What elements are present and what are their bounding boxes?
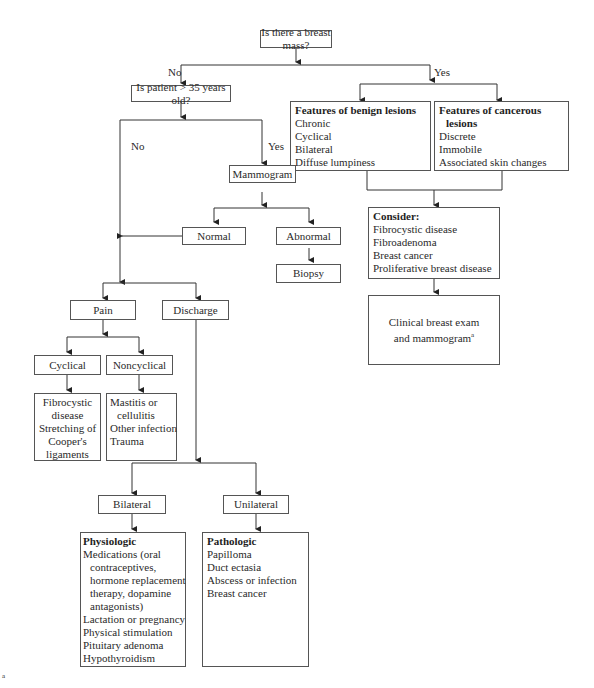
consider-title: Consider: bbox=[373, 210, 495, 223]
breast-mass-question-label: Is there a breast mass? bbox=[261, 26, 331, 52]
age-no-label: No bbox=[131, 140, 144, 153]
branch-yes-label: Yes bbox=[434, 66, 450, 79]
branch-no-label: No bbox=[168, 66, 181, 79]
cyclical-cause-line: ligaments bbox=[36, 448, 99, 461]
cyclical-label: Cyclical bbox=[49, 359, 86, 372]
physiologic-line: therapy, dopamine bbox=[83, 587, 183, 600]
normal-label: Normal bbox=[197, 230, 231, 243]
cyclical-cause-line: Stretching of bbox=[36, 422, 99, 435]
noncyclical-box: Noncyclical bbox=[106, 355, 173, 375]
abnormal-box: Abnormal bbox=[276, 227, 341, 245]
benign-features-box: Features of benign lesions Chronic Cycli… bbox=[290, 101, 431, 171]
clinical-exam-line1: Clinical breast exam bbox=[389, 316, 479, 329]
clinical-exam-line2: and mammogram bbox=[394, 331, 471, 343]
physiologic-line: hormone replacement bbox=[83, 574, 183, 587]
consider-item: Breast cancer bbox=[373, 249, 495, 262]
consider-box: Consider: Fibrocystic disease Fibroadeno… bbox=[368, 207, 500, 279]
cancerous-feature-item: Immobile bbox=[439, 143, 564, 156]
noncyclical-cause-line: cellulitis bbox=[110, 409, 173, 422]
physiologic-box: Physiologic Medications (oral contracept… bbox=[80, 532, 186, 667]
physiologic-line: antagonists) bbox=[83, 600, 183, 613]
physiologic-line: Lactation or pregnancy bbox=[83, 613, 183, 626]
age-question-label: Is patient > 35 years old? bbox=[132, 81, 230, 107]
cyclical-cause-line: Fibrocystic bbox=[36, 396, 99, 409]
benign-feature-item: Chronic bbox=[295, 117, 426, 130]
physiologic-title: Physiologic bbox=[83, 535, 183, 548]
noncyclical-cause-line: Trauma bbox=[110, 435, 173, 448]
footnote-a-marker: a bbox=[471, 331, 474, 339]
consider-item: Fibroadenoma bbox=[373, 236, 495, 249]
physiologic-line: Physical stimulation bbox=[83, 626, 183, 639]
cancerous-features-box: Features of cancerous lesions Discrete I… bbox=[434, 101, 569, 171]
mammogram-label: Mammogram bbox=[233, 168, 293, 181]
abnormal-label: Abnormal bbox=[286, 230, 331, 243]
cancerous-features-title: Features of cancerous bbox=[439, 104, 564, 117]
biopsy-box: Biopsy bbox=[276, 264, 341, 283]
consider-item: Proliferative breast disease bbox=[373, 262, 495, 275]
pathologic-item: Abscess or infection bbox=[207, 574, 304, 587]
consider-item: Fibrocystic disease bbox=[373, 223, 495, 236]
physiologic-line: contraceptives, bbox=[83, 561, 183, 574]
biopsy-label: Biopsy bbox=[293, 267, 324, 280]
breast-mass-question-box: Is there a breast mass? bbox=[260, 30, 332, 48]
bilateral-box: Bilateral bbox=[98, 495, 166, 514]
pathologic-title: Pathologic bbox=[207, 535, 304, 548]
cancerous-feature-item: Associated skin changes bbox=[439, 156, 564, 169]
noncyclical-label: Noncyclical bbox=[113, 359, 166, 372]
benign-feature-item: Cyclical bbox=[295, 130, 426, 143]
physiologic-line: Hypothyroidism bbox=[83, 652, 183, 665]
discharge-label: Discharge bbox=[173, 304, 217, 317]
age-question-box: Is patient > 35 years old? bbox=[131, 85, 231, 102]
noncyclical-cause-line: Mastitis or bbox=[110, 396, 173, 409]
benign-features-title: Features of benign lesions bbox=[295, 104, 426, 117]
normal-box: Normal bbox=[182, 227, 246, 245]
physiologic-line: Medications (oral bbox=[83, 548, 183, 561]
cyclical-cause-line: disease bbox=[36, 409, 99, 422]
cancerous-features-title-cont: lesions bbox=[439, 117, 564, 130]
bilateral-label: Bilateral bbox=[113, 498, 151, 511]
cyclical-box: Cyclical bbox=[34, 355, 101, 375]
benign-feature-item: Bilateral bbox=[295, 143, 426, 156]
pain-box: Pain bbox=[70, 300, 136, 320]
physiologic-line: Pituitary adenoma bbox=[83, 639, 183, 652]
benign-feature-item: Diffuse lumpiness bbox=[295, 156, 426, 169]
pathologic-item: Duct ectasia bbox=[207, 561, 304, 574]
unilateral-box: Unilateral bbox=[223, 495, 289, 514]
age-yes-label: Yes bbox=[268, 140, 284, 153]
pathologic-box: Pathologic Papilloma Duct ectasia Absces… bbox=[202, 532, 309, 667]
footnote-marker: a bbox=[2, 672, 5, 680]
cyclical-cause-line: Cooper's bbox=[36, 435, 99, 448]
noncyclical-causes-box: Mastitis or cellulitis Other infection T… bbox=[106, 393, 177, 461]
clinical-exam-line2-wrap: and mammograma bbox=[394, 329, 474, 345]
discharge-box: Discharge bbox=[162, 300, 229, 320]
cyclical-causes-box: Fibrocystic disease Stretching of Cooper… bbox=[34, 393, 101, 461]
pain-label: Pain bbox=[93, 304, 113, 317]
pathologic-item: Breast cancer bbox=[207, 587, 304, 600]
noncyclical-cause-line: Other infection bbox=[110, 422, 173, 435]
clinical-exam-box: Clinical breast exam and mammograma bbox=[368, 295, 500, 365]
unilateral-label: Unilateral bbox=[234, 498, 278, 511]
cancerous-feature-item: Discrete bbox=[439, 130, 564, 143]
pathologic-item: Papilloma bbox=[207, 548, 304, 561]
mammogram-box: Mammogram bbox=[229, 165, 296, 183]
